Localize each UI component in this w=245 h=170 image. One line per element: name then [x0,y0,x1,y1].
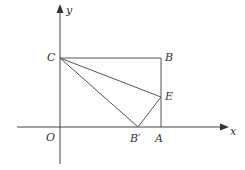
x-axis-arrow-icon [220,124,229,131]
point-label-A: A [154,132,163,145]
segment-CE [60,58,161,97]
segment-CB-prime [60,58,138,127]
y-axis-label: y [65,4,73,17]
x-axis [17,124,229,131]
y-axis [57,4,64,164]
geometry-diagram: y x O C B E B′ A [0,0,245,170]
point-label-B-prime: B′ [129,132,141,145]
segment-B-prime-E [138,97,161,127]
y-axis-arrow-icon [57,4,64,13]
point-label-B: B [164,51,173,64]
point-label-C: C [47,51,56,64]
x-axis-label: x [230,125,237,138]
point-label-E: E [164,90,173,103]
point-label-O: O [46,131,55,144]
